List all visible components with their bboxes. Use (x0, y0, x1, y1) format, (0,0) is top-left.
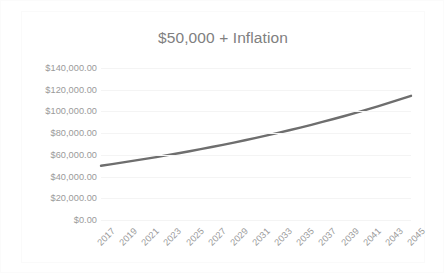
gridline (101, 220, 411, 221)
x-tick-label: 2027 (206, 226, 228, 248)
plot-area (101, 68, 411, 220)
gridline (101, 133, 411, 134)
x-tick-label: 2041 (361, 226, 383, 248)
x-tick-label: 2045 (405, 226, 427, 248)
y-axis: $140,000.00$120,000.00$100,000.00$80,000… (15, 68, 97, 220)
x-tick-label: 2023 (162, 226, 184, 248)
x-tick-label: 2039 (339, 226, 361, 248)
x-tick-label: 2019 (118, 226, 140, 248)
x-tick-label: 2037 (317, 226, 339, 248)
gridline (101, 90, 411, 91)
chart-container: $50,000 + Inflation $140,000.00$120,000.… (0, 0, 444, 273)
x-tick-label: 2021 (140, 226, 162, 248)
gridline (101, 177, 411, 178)
x-tick-label: 2025 (184, 226, 206, 248)
x-tick-label: 2017 (95, 226, 117, 248)
gridline (101, 111, 411, 112)
y-tick-label: $0.00 (74, 215, 97, 225)
gridline (101, 68, 411, 69)
y-tick-label: $40,000.00 (51, 172, 97, 182)
y-tick-label: $60,000.00 (51, 150, 97, 160)
x-tick-label: 2043 (383, 226, 405, 248)
y-tick-label: $140,000.00 (45, 63, 97, 73)
x-tick-label: 2033 (273, 226, 295, 248)
y-tick-label: $100,000.00 (45, 106, 97, 116)
chart-title: $50,000 + Inflation (1, 29, 444, 47)
y-tick-label: $20,000.00 (51, 193, 97, 203)
x-tick-label: 2029 (228, 226, 250, 248)
gridline (101, 198, 411, 199)
y-tick-label: $120,000.00 (45, 85, 97, 95)
series-line-inflation (101, 68, 411, 220)
x-axis: 2017201920212023202520272029203120332035… (101, 222, 411, 268)
x-tick-label: 2035 (295, 226, 317, 248)
gridline (101, 155, 411, 156)
y-tick-label: $80,000.00 (51, 128, 97, 138)
x-tick-label: 2031 (250, 226, 272, 248)
